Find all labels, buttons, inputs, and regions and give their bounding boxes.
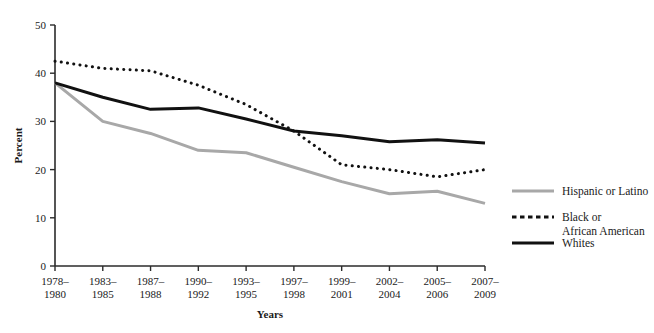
y-axis-tick-label: 30 xyxy=(35,115,47,127)
line-chart: 010203040501978–19801983–19851987–198819… xyxy=(0,0,654,333)
legend-label-2: Black or xyxy=(562,211,601,223)
chart-container: 010203040501978–19801983–19851987–198819… xyxy=(0,0,654,333)
x-axis-tick-label: 2007– xyxy=(471,275,499,287)
y-axis-tick-label: 50 xyxy=(35,19,47,31)
x-axis-tick-label: 1993– xyxy=(232,275,260,287)
x-axis-tick-label: 1987– xyxy=(137,275,165,287)
y-axis-tick-label: 20 xyxy=(35,164,47,176)
x-axis-tick-label: 1980 xyxy=(44,288,67,300)
x-axis-tick-label: 1992 xyxy=(187,288,209,300)
x-axis-tick-label: 2005– xyxy=(423,275,451,287)
x-axis-tick-label: 2009 xyxy=(474,288,497,300)
series-line-whites xyxy=(55,83,485,143)
x-axis-tick-label: 2001 xyxy=(331,288,353,300)
y-axis-tick-label: 0 xyxy=(41,260,47,272)
legend-label-1: Hispanic or Latino xyxy=(562,185,648,198)
legend-label-2-line2: African American xyxy=(562,225,645,237)
x-axis-tick-label: 1985 xyxy=(92,288,115,300)
x-axis-tick-label: 1990– xyxy=(185,275,213,287)
y-axis-title: Percent xyxy=(12,127,24,163)
y-axis-tick-label: 10 xyxy=(35,212,47,224)
x-axis-tick-label: 1998 xyxy=(283,288,306,300)
x-axis-tick-label: 1999– xyxy=(328,275,356,287)
x-axis-tick-label: 1997– xyxy=(280,275,308,287)
x-axis-tick-label: 2002– xyxy=(376,275,404,287)
x-axis-tick-label: 1983– xyxy=(89,275,117,287)
x-axis-title: Years xyxy=(257,308,284,320)
y-axis-tick-label: 40 xyxy=(35,67,47,79)
x-axis-tick-label: 2004 xyxy=(378,288,401,300)
x-axis-tick-label: 1978– xyxy=(41,275,69,287)
x-axis-tick-label: 2006 xyxy=(426,288,449,300)
x-axis-tick-label: 1988 xyxy=(140,288,163,300)
legend-label-3: Whites xyxy=(562,237,595,249)
x-axis-tick-label: 1995 xyxy=(235,288,258,300)
